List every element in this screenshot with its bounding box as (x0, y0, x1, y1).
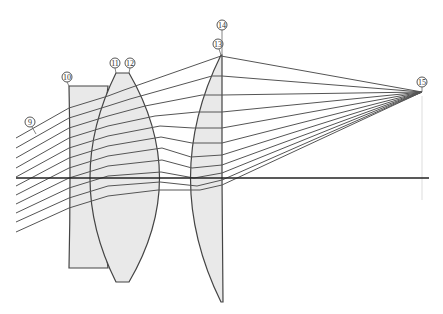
label-12: 12 (125, 58, 135, 73)
label-14-text: 14 (218, 21, 226, 30)
label-11-text: 11 (111, 59, 119, 68)
label-13: 13 (213, 39, 223, 55)
label-12-text: 12 (126, 59, 134, 68)
label-11: 11 (110, 58, 120, 73)
label-15-text: 15 (418, 78, 426, 87)
optical-diagram: 9 10 11 12 13 14 15 (0, 0, 443, 314)
label-15: 15 (417, 77, 427, 92)
label-13-text: 13 (214, 40, 222, 49)
label-14: 14 (217, 20, 227, 55)
label-9-text: 9 (28, 118, 32, 127)
label-10-text: 10 (63, 73, 71, 82)
label-10: 10 (62, 72, 72, 86)
